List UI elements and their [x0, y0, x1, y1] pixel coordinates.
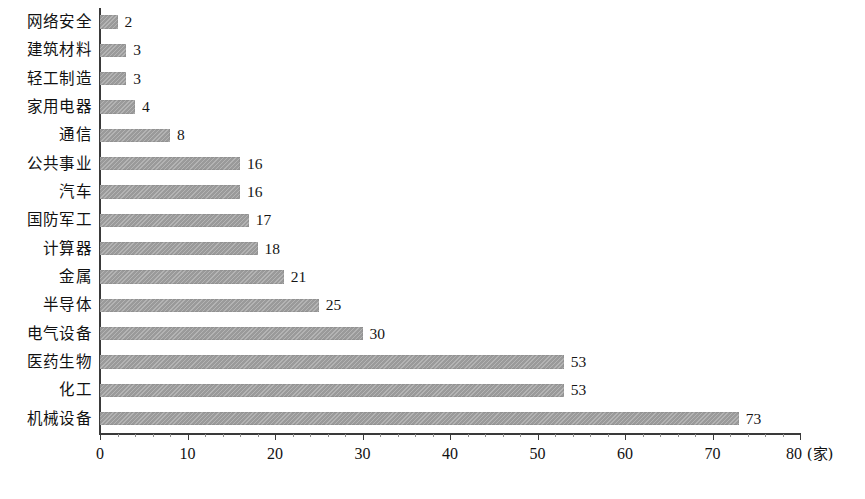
bar-row: 汽车16 [0, 178, 865, 206]
x-axis-minor-tick [310, 434, 311, 437]
bar [100, 15, 118, 28]
x-axis-tick-label: 0 [96, 444, 104, 464]
bar-value-label: 2 [125, 8, 133, 36]
bar-value-label: 18 [265, 235, 281, 263]
x-axis-major-tick [100, 434, 101, 440]
x-axis-minor-tick [328, 434, 329, 437]
bar [100, 157, 240, 170]
bar-row: 机械设备73 [0, 405, 865, 433]
x-axis-tick-label: 50 [530, 444, 546, 464]
bar [100, 327, 363, 340]
category-label: 化工 [0, 376, 92, 404]
bar [100, 384, 564, 397]
bar-row: 通信8 [0, 121, 865, 149]
bar-row: 轻工制造3 [0, 65, 865, 93]
bar [100, 44, 126, 57]
horizontal-bar-chart: 网络安全2建筑材料3轻工制造3家用电器4通信8公共事业16汽车16国防军工17计… [0, 0, 865, 499]
category-label: 轻工制造 [0, 65, 92, 93]
category-label: 半导体 [0, 291, 92, 319]
x-axis-minor-tick [433, 434, 434, 437]
bar-value-label: 16 [247, 178, 263, 206]
x-axis-minor-tick [118, 434, 119, 437]
x-axis-minor-tick [258, 434, 259, 437]
x-axis-major-tick [450, 434, 451, 440]
bar-row: 半导体25 [0, 291, 865, 319]
x-axis-minor-tick [398, 434, 399, 437]
bar [100, 299, 319, 312]
bar [100, 214, 249, 227]
bar-value-label: 8 [177, 121, 185, 149]
bar [100, 270, 284, 283]
x-axis-minor-tick [695, 434, 696, 437]
bar-row: 金属21 [0, 263, 865, 291]
bar [100, 129, 170, 142]
bar-row: 国防军工17 [0, 206, 865, 234]
bar-value-label: 16 [247, 150, 263, 178]
x-axis-minor-tick [415, 434, 416, 437]
bar-value-label: 53 [571, 348, 587, 376]
x-axis-tick-label: 40 [442, 444, 458, 464]
x-axis-minor-tick [765, 434, 766, 437]
x-axis-major-tick [625, 434, 626, 440]
x-axis-minor-tick [730, 434, 731, 437]
bar-row: 网络安全2 [0, 8, 865, 36]
x-axis-tick-label-text: 80 [786, 445, 802, 462]
x-axis-minor-tick [345, 434, 346, 437]
x-axis-tick-label: 30 [355, 444, 371, 464]
bar-value-label: 53 [571, 376, 587, 404]
category-label: 医药生物 [0, 348, 92, 376]
bar [100, 355, 564, 368]
bar-value-label: 3 [133, 36, 141, 64]
x-axis-minor-tick [748, 434, 749, 437]
x-axis-minor-tick [783, 434, 784, 437]
bar-row: 计算器18 [0, 235, 865, 263]
category-label: 电气设备 [0, 320, 92, 348]
category-label: 国防军工 [0, 206, 92, 234]
x-axis-minor-tick [608, 434, 609, 437]
x-axis-unit-label: (家) [802, 445, 833, 463]
x-axis-minor-tick [503, 434, 504, 437]
x-axis-minor-tick [205, 434, 206, 437]
bar-value-label: 73 [746, 405, 762, 433]
x-axis-major-tick [363, 434, 364, 440]
category-label: 家用电器 [0, 93, 92, 121]
bar-value-label: 3 [133, 65, 141, 93]
bar-row: 医药生物53 [0, 348, 865, 376]
x-axis-minor-tick [678, 434, 679, 437]
bar-row: 电气设备30 [0, 320, 865, 348]
bar [100, 412, 739, 425]
bar-value-label: 25 [326, 291, 342, 319]
x-axis-tick-label: 70 [705, 444, 721, 464]
x-axis-major-tick [800, 434, 801, 440]
bar [100, 185, 240, 198]
x-axis-tick-label: 10 [180, 444, 196, 464]
category-label: 计算器 [0, 235, 92, 263]
x-axis-minor-tick [153, 434, 154, 437]
x-axis-major-tick [713, 434, 714, 440]
x-axis-minor-tick [293, 434, 294, 437]
category-label: 机械设备 [0, 405, 92, 433]
x-axis-minor-tick [555, 434, 556, 437]
x-axis-minor-tick [660, 434, 661, 437]
category-label: 建筑材料 [0, 36, 92, 64]
x-axis-minor-tick [468, 434, 469, 437]
x-axis-minor-tick [135, 434, 136, 437]
bar-value-label: 21 [291, 263, 307, 291]
x-axis-minor-tick [573, 434, 574, 437]
x-axis-minor-tick [170, 434, 171, 437]
x-axis-major-tick [275, 434, 276, 440]
x-axis-minor-tick [643, 434, 644, 437]
bar-value-label: 4 [142, 93, 150, 121]
x-axis-major-tick [188, 434, 189, 440]
x-axis-tick-label: 20 [267, 444, 283, 464]
category-label: 网络安全 [0, 8, 92, 36]
bar [100, 72, 126, 85]
x-axis-minor-tick [223, 434, 224, 437]
x-axis-minor-tick [380, 434, 381, 437]
bar-value-label: 17 [256, 206, 272, 234]
bar-row: 家用电器4 [0, 93, 865, 121]
x-axis-tick-label: 60 [617, 444, 633, 464]
category-label: 金属 [0, 263, 92, 291]
x-axis-tick-label: 80 (家) [786, 444, 833, 464]
x-axis-minor-tick [520, 434, 521, 437]
